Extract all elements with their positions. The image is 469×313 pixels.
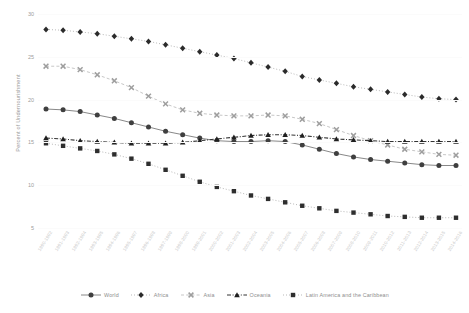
legend-label: Oceania xyxy=(250,292,271,298)
data-point xyxy=(60,27,65,33)
data-point xyxy=(198,180,202,184)
data-point xyxy=(368,86,373,92)
data-point xyxy=(351,154,356,159)
x-axis-tick-label: 2007-2009 xyxy=(327,230,343,252)
x-axis-tick-label: 2000-2002 xyxy=(208,230,224,252)
x-axis-tick-label: 2011-2013 xyxy=(396,230,412,252)
x-axis-tick-label: 1992-1994 xyxy=(71,230,87,252)
data-point xyxy=(265,64,270,70)
x-axis-tick-label: 2014-2016 xyxy=(447,230,463,252)
y-axis-tick-20: 20 xyxy=(28,97,34,103)
legend-marker-triangle-icon xyxy=(226,291,248,299)
legend-label: World xyxy=(104,292,119,298)
plot-area: 30252015105 xyxy=(38,14,462,228)
undernourishment-line-chart: Percent of Undernourishment 30252015105 … xyxy=(0,0,469,313)
x-axis-tick-label: 2008-2010 xyxy=(344,230,360,252)
chart-legend: WorldAfricaAsiaOceaniaLatin America and … xyxy=(0,291,469,299)
y-axis-tick-30: 30 xyxy=(28,11,34,17)
data-point xyxy=(351,84,356,90)
x-axis-tick-label: 2009-2011 xyxy=(362,230,378,252)
data-point xyxy=(163,129,168,134)
data-point xyxy=(334,151,339,156)
data-point xyxy=(385,159,390,164)
y-axis-tick-5: 5 xyxy=(31,225,34,231)
data-point xyxy=(95,149,99,153)
data-point xyxy=(317,147,322,152)
data-point xyxy=(146,124,151,129)
data-point xyxy=(385,89,390,95)
data-point xyxy=(180,174,184,178)
data-point xyxy=(112,78,117,83)
data-point xyxy=(163,168,167,172)
data-point xyxy=(78,109,83,114)
legend-label: Latin America and the Caribbean xyxy=(306,292,389,298)
data-point xyxy=(402,91,407,97)
x-axis-tick-label: 1993-1995 xyxy=(88,230,104,252)
data-point xyxy=(95,31,100,37)
data-point xyxy=(95,72,100,77)
legend-item[interactable]: Oceania xyxy=(226,291,271,299)
legend-item[interactable]: Asia xyxy=(180,291,215,299)
legend-label: Asia xyxy=(204,292,215,298)
legend-marker-x-icon xyxy=(180,291,202,299)
data-point xyxy=(419,162,424,167)
legend-item[interactable]: Africa xyxy=(130,291,169,299)
x-axis-tick-labels: 1990-19921991-19931992-19941993-19951994… xyxy=(38,230,462,286)
data-point xyxy=(368,212,372,216)
legend-label: Africa xyxy=(154,292,169,298)
data-point xyxy=(351,210,355,214)
gridline xyxy=(38,57,462,58)
data-point xyxy=(129,36,134,42)
x-axis-tick-label: 1990-1992 xyxy=(37,230,53,252)
legend-item[interactable]: Latin America and the Caribbean xyxy=(282,291,389,299)
data-point xyxy=(146,94,151,99)
data-point xyxy=(197,49,202,55)
legend-marker-diamond-icon xyxy=(130,291,152,299)
data-point xyxy=(61,144,65,148)
data-point xyxy=(146,162,150,166)
data-point xyxy=(163,42,168,48)
gridline xyxy=(38,100,462,101)
data-point xyxy=(180,132,185,137)
data-point xyxy=(385,214,389,218)
gridline xyxy=(38,185,462,186)
data-point xyxy=(248,60,253,66)
data-point xyxy=(283,200,287,204)
data-point xyxy=(129,156,133,160)
data-point xyxy=(334,209,338,213)
data-point xyxy=(77,29,82,35)
data-point xyxy=(112,116,117,121)
x-axis-tick-label: 2003-2005 xyxy=(259,230,275,252)
data-point xyxy=(420,216,424,220)
data-point xyxy=(402,160,407,165)
data-point xyxy=(61,64,66,69)
data-point xyxy=(334,127,339,132)
data-point xyxy=(232,189,236,193)
data-point xyxy=(163,101,168,106)
data-point xyxy=(61,107,66,112)
x-axis-tick-label: 2001-2003 xyxy=(225,230,241,252)
x-axis-tick-label: 1995-1997 xyxy=(122,230,138,252)
gridline xyxy=(38,228,462,229)
x-axis-tick-label: 2010-2012 xyxy=(379,230,395,252)
data-point xyxy=(403,215,407,219)
x-axis-tick-label: 1998-2000 xyxy=(174,230,190,252)
legend-item[interactable]: World xyxy=(80,291,119,299)
x-axis-tick-label: 1991-1993 xyxy=(54,230,70,252)
series-line xyxy=(46,143,456,217)
gridline xyxy=(38,14,462,15)
data-point xyxy=(266,197,270,201)
series-latin-america-and-the-caribbean xyxy=(44,141,458,220)
data-point xyxy=(180,45,185,51)
y-axis-tick-15: 15 xyxy=(28,139,34,145)
x-axis-tick-label: 2004-2006 xyxy=(276,230,292,252)
data-point xyxy=(454,163,459,168)
data-point xyxy=(317,206,321,210)
x-axis-tick-label: 1997-1999 xyxy=(156,230,172,252)
data-point xyxy=(95,113,100,118)
data-point xyxy=(317,77,322,83)
data-point xyxy=(112,152,116,156)
data-point xyxy=(146,38,151,44)
y-axis-tick-10: 10 xyxy=(28,182,34,188)
data-point xyxy=(454,216,458,220)
